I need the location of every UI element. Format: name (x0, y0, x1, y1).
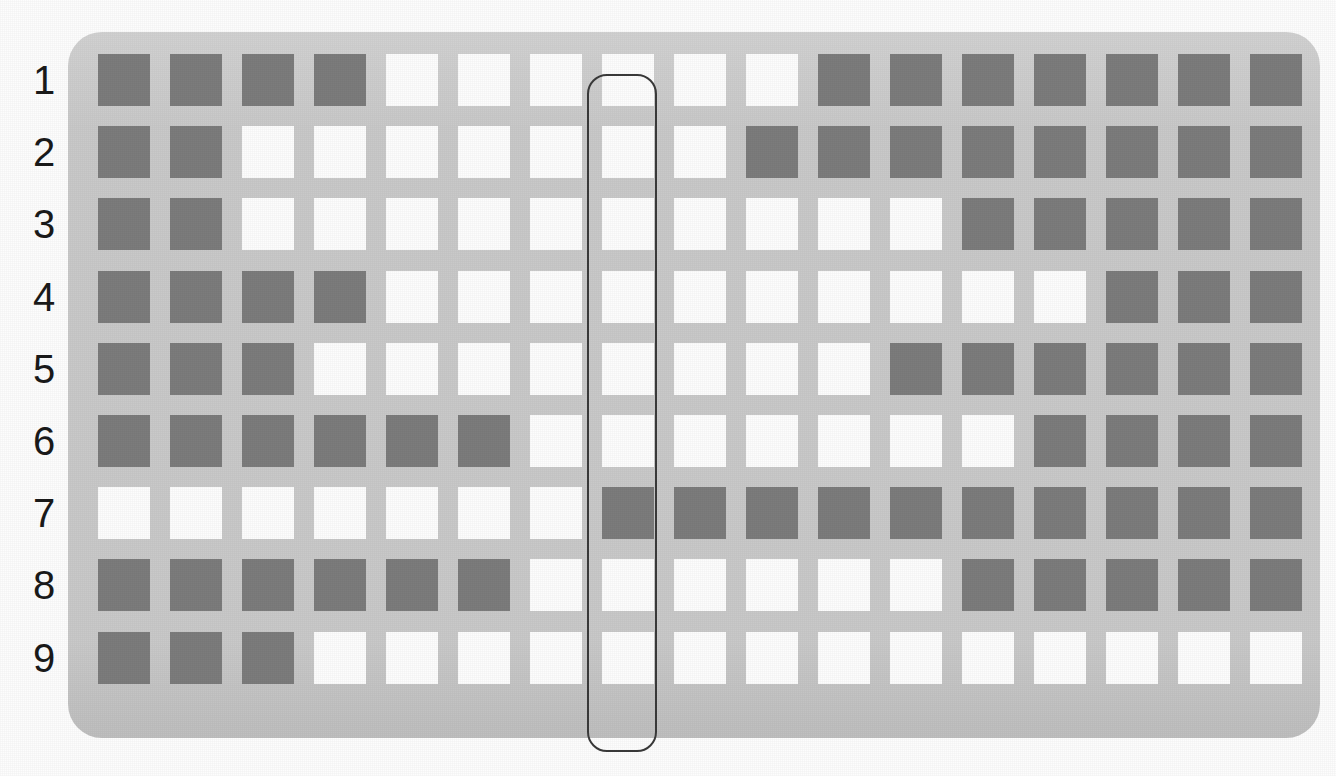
grid-cell-r5-c1[interactable] (98, 343, 150, 395)
grid-cell-r6-c3[interactable] (242, 415, 294, 467)
grid-cell-r6-c15[interactable] (1106, 415, 1158, 467)
grid-cell-r7-c12[interactable] (890, 487, 942, 539)
grid-cell-r8-c2[interactable] (170, 559, 222, 611)
grid-cell-r4-c15[interactable] (1106, 271, 1158, 323)
grid-cell-r7-c17[interactable] (1250, 487, 1302, 539)
grid-cell-r6-c7[interactable] (530, 415, 582, 467)
grid-cell-r4-c7[interactable] (530, 271, 582, 323)
grid-cell-r3-c6[interactable] (458, 198, 510, 250)
grid-cell-r1-c7[interactable] (530, 54, 582, 106)
grid-cell-r8-c6[interactable] (458, 559, 510, 611)
grid-cell-r5-c5[interactable] (386, 343, 438, 395)
grid-cell-r6-c12[interactable] (890, 415, 942, 467)
grid-cell-r8-c9[interactable] (674, 559, 726, 611)
grid-cell-r5-c13[interactable] (962, 343, 1014, 395)
grid-cell-r4-c2[interactable] (170, 271, 222, 323)
grid-cell-r9-c9[interactable] (674, 632, 726, 684)
grid-cell-r5-c12[interactable] (890, 343, 942, 395)
grid-cell-r5-c15[interactable] (1106, 343, 1158, 395)
grid-cell-r5-c9[interactable] (674, 343, 726, 395)
grid-cell-r3-c10[interactable] (746, 198, 798, 250)
grid-cell-r6-c13[interactable] (962, 415, 1014, 467)
grid-cell-r6-c10[interactable] (746, 415, 798, 467)
grid-cell-r1-c14[interactable] (1034, 54, 1086, 106)
grid-cell-r2-c4[interactable] (314, 126, 366, 178)
grid-cell-r2-c15[interactable] (1106, 126, 1158, 178)
grid-cell-r7-c1[interactable] (98, 487, 150, 539)
grid-cell-r7-c9[interactable] (674, 487, 726, 539)
grid-cell-r4-c11[interactable] (818, 271, 870, 323)
grid-cell-r2-c7[interactable] (530, 126, 582, 178)
grid-cell-r1-c15[interactable] (1106, 54, 1158, 106)
grid-cell-r1-c11[interactable] (818, 54, 870, 106)
grid-cell-r9-c4[interactable] (314, 632, 366, 684)
grid-cell-r6-c2[interactable] (170, 415, 222, 467)
grid-cell-r1-c2[interactable] (170, 54, 222, 106)
grid-cell-r7-c10[interactable] (746, 487, 798, 539)
grid-cell-r9-c11[interactable] (818, 632, 870, 684)
grid-cell-r6-c4[interactable] (314, 415, 366, 467)
grid-cell-r3-c2[interactable] (170, 198, 222, 250)
grid-cell-r7-c11[interactable] (818, 487, 870, 539)
grid-cell-r5-c16[interactable] (1178, 343, 1230, 395)
grid-cell-r8-c5[interactable] (386, 559, 438, 611)
grid-cell-r1-c16[interactable] (1178, 54, 1230, 106)
grid-cell-r1-c6[interactable] (458, 54, 510, 106)
grid-cell-r6-c1[interactable] (98, 415, 150, 467)
grid-cell-r1-c17[interactable] (1250, 54, 1302, 106)
grid-cell-r6-c5[interactable] (386, 415, 438, 467)
grid-cell-r7-c7[interactable] (530, 487, 582, 539)
grid-cell-r4-c16[interactable] (1178, 271, 1230, 323)
grid-cell-r4-c3[interactable] (242, 271, 294, 323)
grid-cell-r3-c12[interactable] (890, 198, 942, 250)
grid-cell-r3-c17[interactable] (1250, 198, 1302, 250)
grid-cell-r4-c10[interactable] (746, 271, 798, 323)
grid-cell-r5-c14[interactable] (1034, 343, 1086, 395)
grid-cell-r7-c6[interactable] (458, 487, 510, 539)
grid-cell-r9-c10[interactable] (746, 632, 798, 684)
grid-cell-r5-c10[interactable] (746, 343, 798, 395)
grid-cell-r4-c17[interactable] (1250, 271, 1302, 323)
grid-cell-r2-c9[interactable] (674, 126, 726, 178)
grid-cell-r5-c6[interactable] (458, 343, 510, 395)
grid-cell-r8-c15[interactable] (1106, 559, 1158, 611)
grid-cell-r8-c16[interactable] (1178, 559, 1230, 611)
grid-cell-r9-c15[interactable] (1106, 632, 1158, 684)
grid-cell-r1-c5[interactable] (386, 54, 438, 106)
grid-cell-r2-c2[interactable] (170, 126, 222, 178)
grid-cell-r1-c12[interactable] (890, 54, 942, 106)
grid-cell-r4-c14[interactable] (1034, 271, 1086, 323)
grid-cell-r7-c2[interactable] (170, 487, 222, 539)
grid-cell-r7-c14[interactable] (1034, 487, 1086, 539)
grid-cell-r4-c6[interactable] (458, 271, 510, 323)
grid-cell-r2-c14[interactable] (1034, 126, 1086, 178)
grid-cell-r4-c9[interactable] (674, 271, 726, 323)
grid-cell-r2-c17[interactable] (1250, 126, 1302, 178)
grid-cell-r7-c13[interactable] (962, 487, 1014, 539)
grid-cell-r2-c16[interactable] (1178, 126, 1230, 178)
grid-cell-r1-c3[interactable] (242, 54, 294, 106)
grid-cell-r6-c14[interactable] (1034, 415, 1086, 467)
grid-cell-r9-c17[interactable] (1250, 632, 1302, 684)
grid-cell-r4-c4[interactable] (314, 271, 366, 323)
grid-cell-r6-c11[interactable] (818, 415, 870, 467)
grid-cell-r5-c2[interactable] (170, 343, 222, 395)
grid-cell-r7-c5[interactable] (386, 487, 438, 539)
grid-cell-r2-c3[interactable] (242, 126, 294, 178)
grid-cell-r9-c14[interactable] (1034, 632, 1086, 684)
grid-cell-r2-c11[interactable] (818, 126, 870, 178)
column-highlight-outline[interactable] (587, 74, 657, 752)
grid-cell-r8-c7[interactable] (530, 559, 582, 611)
grid-cell-r8-c3[interactable] (242, 559, 294, 611)
grid-cell-r7-c15[interactable] (1106, 487, 1158, 539)
grid-cell-r9-c3[interactable] (242, 632, 294, 684)
grid-cell-r7-c4[interactable] (314, 487, 366, 539)
grid-cell-r6-c9[interactable] (674, 415, 726, 467)
grid-cell-r2-c6[interactable] (458, 126, 510, 178)
grid-cell-r7-c3[interactable] (242, 487, 294, 539)
grid-cell-r8-c13[interactable] (962, 559, 1014, 611)
grid-cell-r4-c5[interactable] (386, 271, 438, 323)
grid-cell-r5-c7[interactable] (530, 343, 582, 395)
grid-cell-r9-c16[interactable] (1178, 632, 1230, 684)
grid-cell-r1-c9[interactable] (674, 54, 726, 106)
